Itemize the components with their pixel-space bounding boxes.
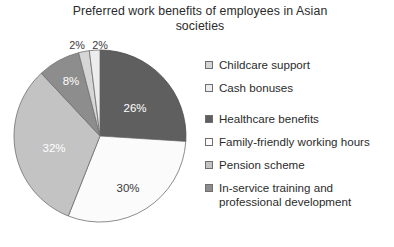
legend-swatch-icon-in-service-training — [205, 184, 213, 192]
slice-value-family-friendly-working-hours: 30% — [116, 182, 139, 194]
legend-label-family-friendly-working-hours: Family-friendly working hours — [219, 135, 370, 149]
chart-legend: Childcare support Cash bonuses Healthcar… — [205, 58, 393, 218]
pie-chart-figure: Preferred work benefits of employees in … — [0, 0, 394, 247]
legend-swatch-icon-pension-scheme — [205, 161, 213, 169]
chart-title-line-1: Preferred work benefits of employees in … — [40, 4, 360, 19]
legend-label-childcare-support: Childcare support — [219, 58, 310, 72]
pie-slice-healthcare-benefits[interactable] — [100, 50, 186, 141]
legend-label-pension-scheme: Pension scheme — [219, 158, 305, 172]
legend-item-childcare-support[interactable]: Childcare support — [205, 58, 393, 72]
pie-plot-area: 26% 30% 32% 8% 2% 2% — [0, 30, 195, 247]
slice-value-childcare-support: 2% — [69, 39, 85, 51]
pie-svg: 26% 30% 32% 8% 2% 2% — [0, 30, 195, 247]
legend-item-healthcare-benefits[interactable]: Healthcare benefits — [205, 112, 393, 126]
slice-value-pension-scheme: 32% — [42, 142, 65, 154]
legend-item-cash-bonuses[interactable]: Cash bonuses — [205, 81, 393, 95]
legend-swatch-icon-childcare-support — [205, 61, 213, 69]
legend-label-cash-bonuses: Cash bonuses — [219, 81, 293, 95]
legend-swatch-icon-healthcare-benefits — [205, 115, 213, 123]
slice-value-healthcare-benefits: 26% — [123, 102, 146, 114]
legend-label-in-service-training: In-service training and professional dev… — [219, 181, 351, 209]
slice-value-in-service-training: 8% — [63, 75, 80, 87]
legend-item-pension-scheme[interactable]: Pension scheme — [205, 158, 393, 172]
legend-item-in-service-training[interactable]: In-service training and professional dev… — [205, 181, 393, 209]
legend-item-family-friendly-working-hours[interactable]: Family-friendly working hours — [205, 135, 393, 149]
legend-swatch-icon-cash-bonuses — [205, 84, 213, 92]
slice-value-cash-bonuses: 2% — [92, 39, 108, 51]
legend-label-healthcare-benefits: Healthcare benefits — [219, 112, 319, 126]
legend-swatch-icon-family-friendly-working-hours — [205, 138, 213, 146]
